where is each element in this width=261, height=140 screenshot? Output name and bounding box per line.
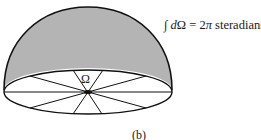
formula-omega: Ω: [177, 18, 186, 32]
solid-angle-formula: ∫ dΩ = 2π steradians: [164, 18, 261, 33]
formula-equals: = 2: [186, 18, 206, 32]
center-point: [84, 90, 92, 94]
integral-sign: ∫: [164, 18, 167, 32]
solid-angle-label: Ω: [81, 72, 90, 87]
figure-caption: (b): [132, 128, 146, 140]
hemisphere-figure: Ω ∫ dΩ = 2π steradians (b): [0, 0, 261, 140]
formula-unit: steradians: [212, 18, 261, 32]
